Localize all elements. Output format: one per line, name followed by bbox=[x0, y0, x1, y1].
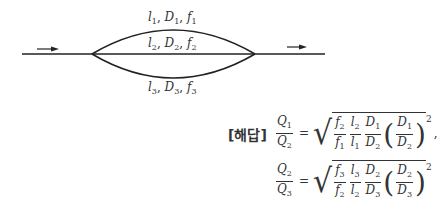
fraction-q2-over-q3: Q2 Q3 bbox=[276, 162, 293, 202]
square-root: √ f3f2 l3l2 D2D3 ( D2D3 ) bbox=[313, 160, 426, 203]
inlet-arrow-icon bbox=[37, 47, 59, 52]
equation-q2-q3: Q2 Q3 = √ f3f2 l3l2 D2D3 ( D2D3 ) 2 bbox=[274, 160, 432, 203]
square-root: √ f2f1 l2l1 D1D2 ( D1D2 ) bbox=[313, 112, 426, 155]
branch-3-label: l3, D3, f3 bbox=[148, 80, 196, 96]
equation-q1-q2: Q1 Q2 = √ f2f1 l2l1 D1D2 ( D1D2 ) 2 , bbox=[274, 112, 437, 155]
branch-1-label: l1, D1, f1 bbox=[148, 10, 196, 26]
lower-branch-pipe bbox=[92, 54, 255, 78]
fraction-q1-over-q2: Q1 Q2 bbox=[276, 114, 293, 154]
outlet-arrow-icon bbox=[287, 45, 307, 50]
pipe-network-diagram bbox=[0, 0, 446, 110]
branch-2-label: l2, D2, f2 bbox=[148, 36, 196, 52]
answer-tag: [해답] bbox=[228, 124, 267, 144]
